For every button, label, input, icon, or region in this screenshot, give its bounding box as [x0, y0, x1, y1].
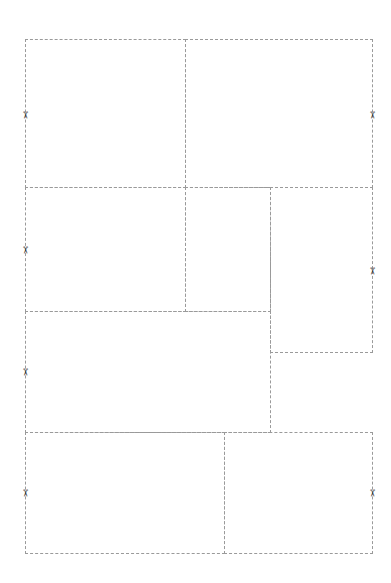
- scissors-icon: ✂: [20, 110, 30, 120]
- cut-panel-p1: [25, 39, 186, 188]
- cut-panel-p6: [25, 311, 271, 433]
- cut-panel-p3: [25, 187, 186, 312]
- cut-panel-p5: [270, 187, 373, 353]
- cut-panel-p4: [185, 187, 271, 312]
- cut-panel-p2: [185, 39, 373, 188]
- scissors-icon: ✂: [20, 367, 30, 377]
- scissors-icon: ✂: [367, 488, 377, 498]
- cut-panel-p8: [224, 432, 373, 554]
- scissors-icon: ✂: [20, 488, 30, 498]
- scissors-icon: ✂: [367, 110, 377, 120]
- scissors-icon: ✂: [20, 245, 30, 255]
- scissors-icon: ✂: [367, 266, 377, 276]
- cut-panel-p7: [25, 432, 225, 554]
